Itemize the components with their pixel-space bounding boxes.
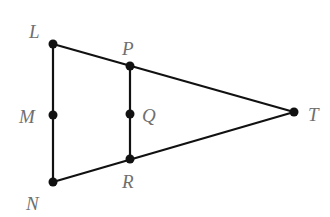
- point-Q: [126, 110, 135, 119]
- point-R: [126, 155, 135, 164]
- label-L: L: [29, 22, 40, 41]
- point-T: [290, 108, 299, 117]
- label-R: R: [122, 172, 134, 191]
- segment-NT: [53, 112, 294, 182]
- point-M: [49, 111, 58, 120]
- label-M: M: [19, 107, 35, 126]
- label-Q: Q: [142, 106, 156, 125]
- point-L: [49, 40, 58, 49]
- segment-LT: [53, 44, 294, 112]
- label-N: N: [26, 194, 39, 213]
- label-T: T: [308, 105, 319, 124]
- point-P: [126, 62, 135, 71]
- triangle-diagram: [0, 0, 330, 217]
- label-P: P: [122, 39, 134, 58]
- point-N: [49, 178, 58, 187]
